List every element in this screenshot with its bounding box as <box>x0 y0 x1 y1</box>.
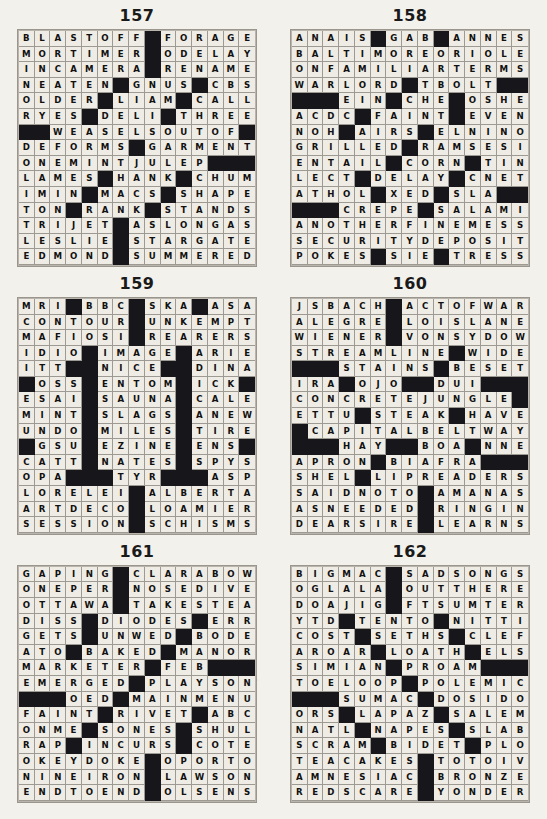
letter-cell: F <box>50 330 66 346</box>
puzzle-159: 159 MRIBBCSKAASACONTOURUNKEMPTMAFIOSIREA… <box>12 276 262 535</box>
block-cell <box>98 93 114 109</box>
letter-cell: A <box>371 582 387 598</box>
letter-cell: L <box>35 93 51 109</box>
letter-cell: A <box>161 392 177 408</box>
letter-cell: F <box>129 31 145 47</box>
letter-cell: S <box>434 598 450 614</box>
letter-cell: E <box>512 582 528 598</box>
letter-cell: E <box>386 502 402 518</box>
letter-cell: H <box>323 187 339 203</box>
letter-cell: I <box>497 234 513 250</box>
letter-cell: I <box>113 424 129 440</box>
letter-cell: P <box>239 470 255 486</box>
letter-cell: L <box>497 645 513 661</box>
letter-cell: A <box>66 62 82 78</box>
letter-cell: S <box>50 614 66 630</box>
letter-cell: O <box>35 203 51 219</box>
letter-cell: T <box>224 738 240 754</box>
block-cell <box>82 187 98 203</box>
letter-cell: N <box>292 723 308 739</box>
letter-cell: E <box>434 346 450 362</box>
letter-cell: M <box>19 660 35 676</box>
letter-cell: A <box>50 392 66 408</box>
letter-cell: A <box>145 692 161 708</box>
crossword-grid-159[interactable]: MRIBBCSKAASACONTOURUNKEMPTMAFIOSIREARERS… <box>19 299 255 533</box>
letter-cell: E <box>339 770 355 786</box>
letter-cell: E <box>497 361 513 377</box>
letter-cell: O <box>512 738 528 754</box>
letter-cell: D <box>145 645 161 661</box>
letter-cell: I <box>371 234 387 250</box>
letter-cell: A <box>176 676 192 692</box>
letter-cell: N <box>145 392 161 408</box>
letter-cell: A <box>434 486 450 502</box>
letter-cell: N <box>465 31 481 47</box>
letter-cell: A <box>323 424 339 440</box>
letter-cell: I <box>371 62 387 78</box>
letter-cell: R <box>50 486 66 502</box>
letter-cell: S <box>50 377 66 393</box>
letter-cell: N <box>512 502 528 518</box>
letter-cell: T <box>449 249 465 265</box>
letter-cell: I <box>497 502 513 518</box>
block-cell <box>82 424 98 440</box>
letter-cell: L <box>481 629 497 645</box>
letter-cell: A <box>35 455 51 471</box>
block-cell <box>145 770 161 786</box>
letter-cell: N <box>145 78 161 94</box>
letter-cell: N <box>35 424 51 440</box>
letter-cell: F <box>402 218 418 234</box>
letter-cell: A <box>323 517 339 533</box>
letter-cell: O <box>481 754 497 770</box>
block-cell <box>386 330 402 346</box>
letter-cell: J <box>129 156 145 172</box>
crossword-grid-161[interactable]: GAPINGCLARABOWONEPERNOSEDIVEOTTAWATAKEST… <box>19 567 255 801</box>
letter-cell: O <box>481 47 497 63</box>
letter-cell: T <box>50 629 66 645</box>
letter-cell: I <box>19 187 35 203</box>
letter-cell: S <box>208 517 224 533</box>
letter-cell: I <box>308 660 324 676</box>
letter-cell: A <box>449 660 465 676</box>
letter-cell: T <box>35 361 51 377</box>
letter-cell: D <box>19 614 35 630</box>
block-cell <box>449 629 465 645</box>
letter-cell: D <box>371 171 387 187</box>
block-cell <box>129 517 145 533</box>
letter-cell: E <box>192 486 208 502</box>
letter-cell: D <box>19 140 35 156</box>
letter-cell: S <box>98 723 114 739</box>
letter-cell: E <box>481 470 497 486</box>
letter-cell: A <box>308 723 324 739</box>
letter-cell: T <box>224 234 240 250</box>
letter-cell: O <box>19 598 35 614</box>
letter-cell: O <box>208 629 224 645</box>
letter-cell: E <box>161 330 177 346</box>
letter-cell: H <box>418 629 434 645</box>
letter-cell: R <box>176 140 192 156</box>
letter-cell: S <box>239 330 255 346</box>
letter-cell: A <box>308 47 324 63</box>
letter-cell: L <box>323 47 339 63</box>
letter-cell: T <box>339 629 355 645</box>
letter-cell: A <box>418 171 434 187</box>
letter-cell: L <box>339 676 355 692</box>
letter-cell: L <box>355 707 371 723</box>
crossword-grid-160[interactable]: JSBACHACTOFWARALEGRELOISLANEWIENERVONSYD… <box>292 299 528 533</box>
letter-cell: O <box>224 645 240 661</box>
block-cell <box>371 249 387 265</box>
letter-cell: E <box>176 660 192 676</box>
block-cell <box>208 660 224 676</box>
letter-cell: O <box>208 738 224 754</box>
letter-cell: D <box>50 93 66 109</box>
letter-cell: T <box>481 598 497 614</box>
letter-cell: E <box>339 93 355 109</box>
letter-cell: N <box>192 218 208 234</box>
crossword-grid-158[interactable]: ANAISGABANNESBALTIMOREORIOLEONFAMILIARTE… <box>292 31 528 265</box>
crossword-grid-162[interactable]: BIGMACSADSONGSOGLALAOUTTHEREDOAJIGFTSUMT… <box>292 567 528 801</box>
letter-cell: L <box>208 47 224 63</box>
letter-cell: M <box>98 187 114 203</box>
letter-cell: F <box>323 62 339 78</box>
letter-cell: N <box>355 486 371 502</box>
crossword-grid-157[interactable]: BLASTOFFFORAGEMORTIMERODELAYINCAMERARENA… <box>19 31 255 265</box>
